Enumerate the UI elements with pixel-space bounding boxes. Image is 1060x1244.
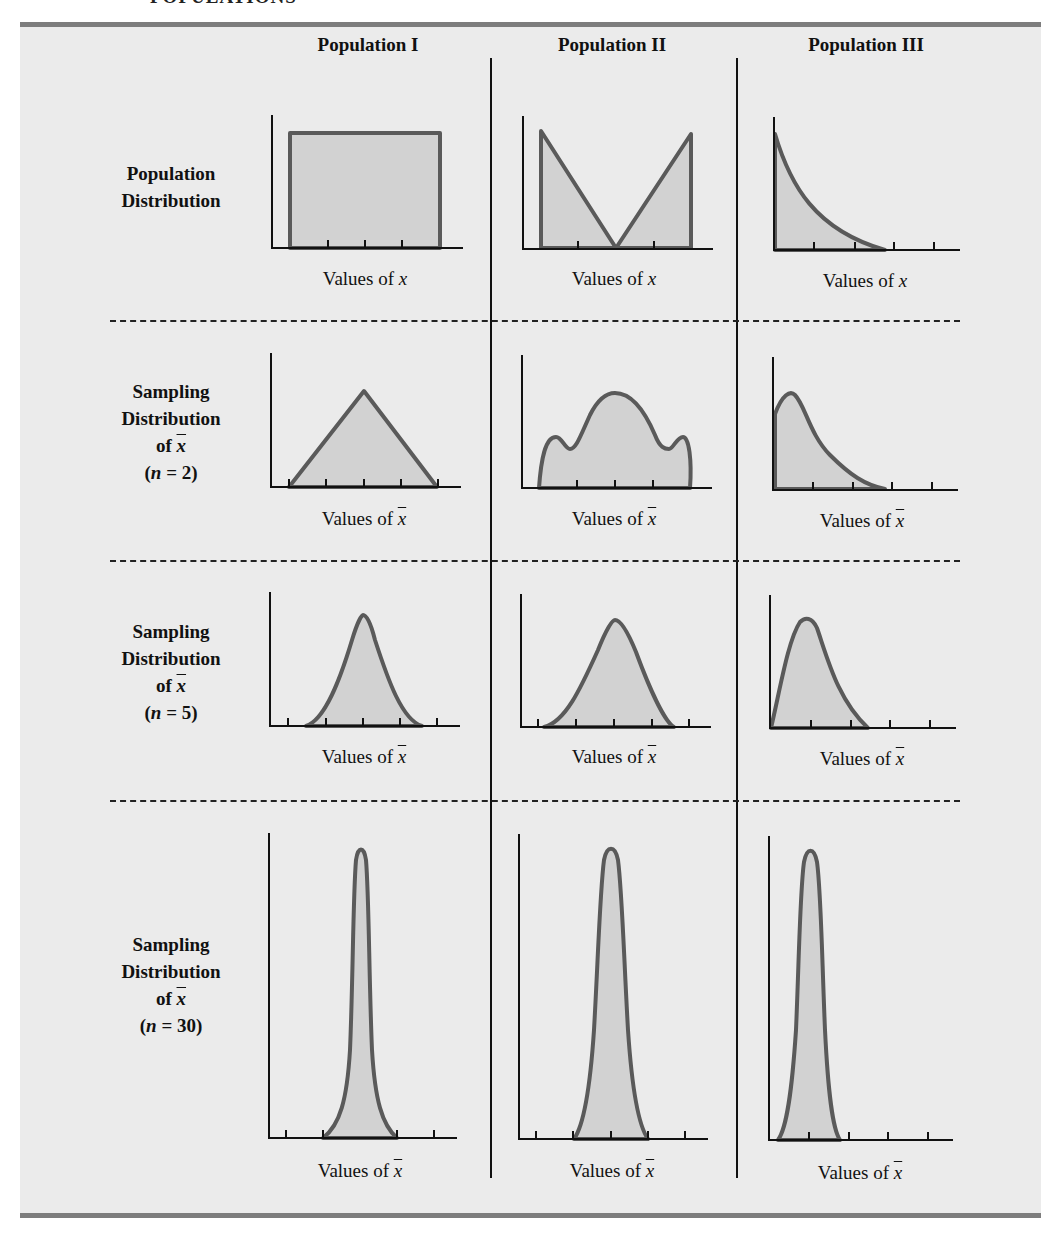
plot-pop2-n5: [521, 594, 711, 727]
plot-pop1-population: [272, 115, 463, 248]
plot-pop2-n2: [522, 355, 712, 488]
plot-pop2-n30: [519, 834, 708, 1139]
plot-pop3-n2: [773, 357, 958, 490]
plot-pop1-n30: [269, 833, 457, 1138]
axis-label-pop2-n5: Values of x: [514, 746, 714, 768]
plot-pop3-n5: [770, 595, 956, 728]
axis-label-pop1-n5: Values of x: [264, 746, 464, 768]
axis-label-pop3-n5: Values of x: [762, 748, 962, 770]
plot-pop1-n2: [271, 353, 461, 487]
plot-grid: [0, 0, 1060, 1244]
plot-pop1-n5: [270, 592, 460, 726]
axis-label-pop2-n30: Values of x: [512, 1160, 712, 1182]
axis-label-pop1-n30: Values of x: [260, 1160, 460, 1182]
axis-label-pop3-population: Values of x: [765, 270, 965, 292]
axis-label-pop2-population: Values of x: [514, 268, 714, 290]
axis-label-pop1-n2: Values of x: [264, 508, 464, 530]
plot-pop3-population: [774, 117, 960, 250]
plot-pop3-n30: [769, 836, 953, 1140]
axis-label-pop2-n2: Values of x: [514, 508, 714, 530]
plot-pop2-population: [523, 116, 713, 249]
axis-label-pop3-n30: Values of x: [760, 1162, 960, 1184]
axis-label-pop3-n2: Values of x: [762, 510, 962, 532]
axis-label-pop1-population: Values of x: [265, 268, 465, 290]
